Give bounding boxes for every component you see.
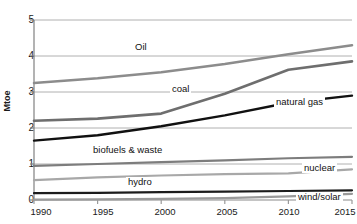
- series-label-wind-solar: wind/solar: [296, 192, 343, 202]
- series-label-coal: coal: [170, 84, 191, 94]
- series-line-oil: [34, 45, 352, 83]
- series-label-hydro: hydro: [126, 177, 154, 187]
- series-label-natural-gas: natural gas: [274, 97, 325, 107]
- series-label-oil: Oil: [133, 42, 149, 52]
- series-label-biofuels-waste: biofuels & waste: [91, 145, 164, 155]
- series-label-nuclear: nuclear: [302, 163, 337, 173]
- energy-consumption-line-chart: Mtoe 0 1 2 3 4 5 1990 1995 2000 2005 201…: [0, 0, 357, 224]
- series-line-coal: [34, 61, 352, 120]
